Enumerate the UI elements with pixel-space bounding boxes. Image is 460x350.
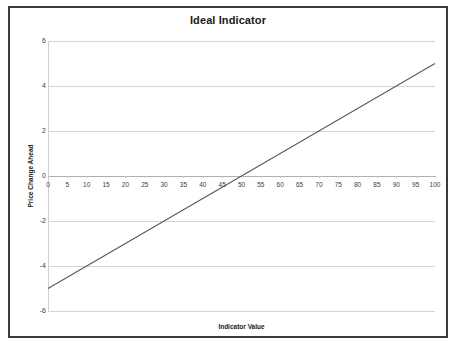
x-tick-mark-95 bbox=[416, 176, 417, 178]
x-tick-label-50: 50 bbox=[238, 182, 245, 189]
x-tick-label-25: 25 bbox=[141, 182, 148, 189]
y-axis-tick-labels: 6420-2-4-6 bbox=[18, 41, 46, 311]
x-tick-mark-100 bbox=[435, 176, 436, 178]
x-tick-label-90: 90 bbox=[393, 182, 400, 189]
x-tick-label-80: 80 bbox=[354, 182, 361, 189]
x-tick-mark-70 bbox=[319, 176, 320, 178]
x-tick-label-85: 85 bbox=[373, 182, 380, 189]
x-tick-label-100: 100 bbox=[430, 182, 441, 189]
x-tick-label-5: 5 bbox=[66, 182, 70, 189]
x-tick-mark-45 bbox=[222, 176, 223, 178]
x-tick-label-30: 30 bbox=[160, 182, 167, 189]
x-tick-label-40: 40 bbox=[199, 182, 206, 189]
x-tick-label-0: 0 bbox=[46, 182, 50, 189]
y-tick-label--6: -6 bbox=[20, 307, 46, 314]
y-tick-label-4: 4 bbox=[20, 82, 46, 89]
x-tick-label-95: 95 bbox=[412, 182, 419, 189]
y-tick-label-6: 6 bbox=[20, 37, 46, 44]
y-tick-label-2: 2 bbox=[20, 127, 46, 134]
y-tick-label-0: 0 bbox=[20, 172, 46, 179]
x-tick-label-35: 35 bbox=[180, 182, 187, 189]
x-tick-mark-85 bbox=[377, 176, 378, 178]
x-tick-mark-15 bbox=[106, 176, 107, 178]
x-tick-label-65: 65 bbox=[296, 182, 303, 189]
chart-frame: Ideal Indicator Price Change Ahead 6420-… bbox=[8, 6, 448, 338]
gridline-y--6 bbox=[48, 311, 435, 312]
x-tick-mark-30 bbox=[164, 176, 165, 178]
x-tick-label-20: 20 bbox=[122, 182, 129, 189]
x-tick-mark-10 bbox=[87, 176, 88, 178]
y-tick-label--2: -2 bbox=[20, 217, 46, 224]
x-tick-mark-50 bbox=[242, 176, 243, 178]
x-tick-label-70: 70 bbox=[315, 182, 322, 189]
x-tick-mark-80 bbox=[358, 176, 359, 178]
y-tick-label--4: -4 bbox=[20, 262, 46, 269]
x-axis-title: Indicator Value bbox=[48, 323, 435, 330]
x-tick-label-60: 60 bbox=[277, 182, 284, 189]
x-tick-label-55: 55 bbox=[257, 182, 264, 189]
x-tick-mark-20 bbox=[125, 176, 126, 178]
x-tick-mark-35 bbox=[183, 176, 184, 178]
x-tick-mark-60 bbox=[280, 176, 281, 178]
x-tick-mark-25 bbox=[145, 176, 146, 178]
x-tick-label-10: 10 bbox=[83, 182, 90, 189]
x-tick-mark-40 bbox=[203, 176, 204, 178]
x-tick-mark-65 bbox=[300, 176, 301, 178]
x-tick-mark-55 bbox=[261, 176, 262, 178]
x-tick-label-45: 45 bbox=[219, 182, 226, 189]
x-tick-label-75: 75 bbox=[335, 182, 342, 189]
x-tick-mark-5 bbox=[67, 176, 68, 178]
x-tick-mark-90 bbox=[396, 176, 397, 178]
x-axis-tick-labels: 0510152025303540455055606570758085909510… bbox=[48, 41, 435, 311]
x-tick-label-15: 15 bbox=[102, 182, 109, 189]
x-tick-mark-0 bbox=[48, 176, 49, 178]
x-tick-mark-75 bbox=[338, 176, 339, 178]
chart-title: Ideal Indicator bbox=[10, 14, 446, 26]
